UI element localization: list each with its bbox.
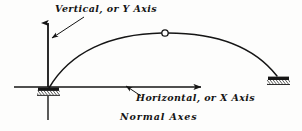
arch-rib — [49, 33, 277, 88]
y-axis-leader-line — [52, 17, 84, 38]
crown-hinge-icon — [162, 30, 168, 36]
y-axis-label: Vertical, or Y Axis — [55, 3, 157, 14]
figure-caption: Normal Axes — [120, 111, 197, 122]
left-support — [37, 88, 60, 96]
right-support — [267, 77, 290, 85]
normal-axes-figure: Vertical, or Y Axis Horizontal, or X Axi… — [0, 0, 302, 131]
x-axis-label: Horizontal, or X Axis — [136, 92, 255, 103]
